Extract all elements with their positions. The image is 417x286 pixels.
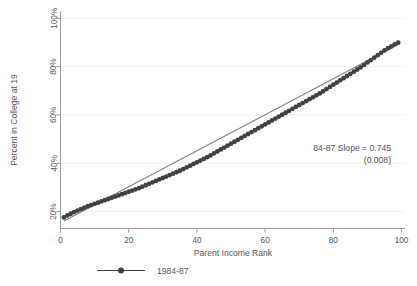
x-tick-label: 20 <box>124 236 134 245</box>
x-tick-label: 60 <box>261 236 271 245</box>
y-tick-label: 40% <box>50 155 59 171</box>
y-tick-label: 60% <box>50 107 59 123</box>
y-tick-label: 20% <box>50 203 59 219</box>
x-tick-label: 100 <box>395 236 409 245</box>
annotation-slope: 84-87 Slope = 0.745 <box>313 143 391 153</box>
x-tick-label: 40 <box>192 236 202 245</box>
data-point <box>396 40 401 45</box>
x-axis-title: Parent Income Rank <box>194 248 273 258</box>
legend-entry-label: 1984-87 <box>157 266 189 276</box>
x-tick-label: 0 <box>58 236 63 245</box>
chart-figure: 20%40%60%80%100% 020406080100 Percent in… <box>0 0 417 286</box>
y-axis-title: Percent in College at 19 <box>9 74 19 166</box>
x-tick-label: 80 <box>329 236 339 245</box>
y-tick-label: 100% <box>50 8 59 29</box>
annotation-standard-error: (0.008) <box>364 155 391 165</box>
legend-marker-icon <box>118 268 124 274</box>
y-tick-label: 80% <box>50 58 59 74</box>
chart-canvas: 20%40%60%80%100% 020406080100 Percent in… <box>0 0 417 286</box>
